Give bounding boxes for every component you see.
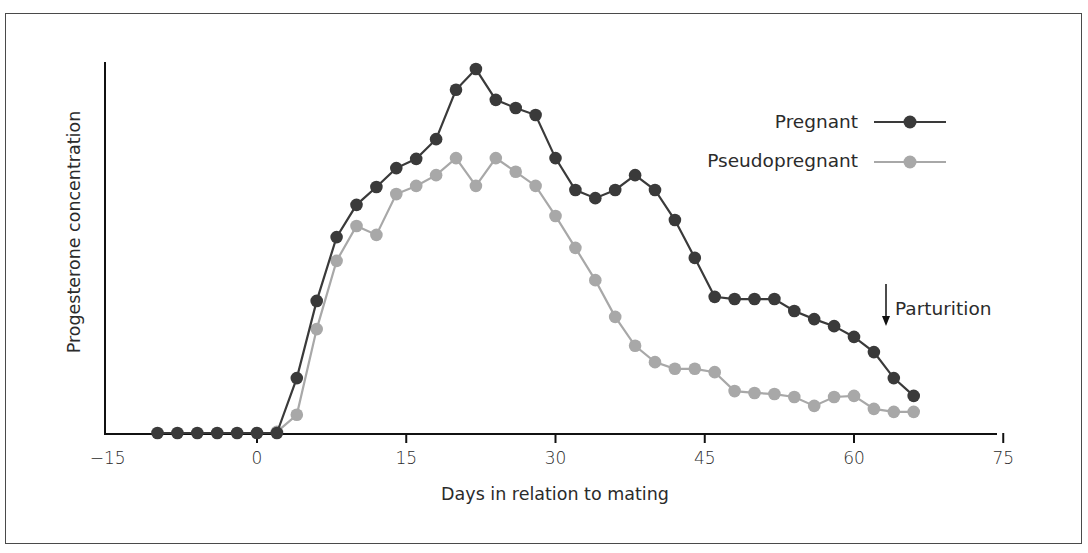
data-point-marker [350,220,363,233]
y-axis-title: Progesterone concentration [64,111,84,354]
x-axis-ticks: −1501530456075 [90,433,1014,468]
data-point-marker [649,356,662,369]
data-point-marker [509,166,522,179]
x-tick-label: 60 [843,448,865,468]
data-point-marker [291,409,304,422]
data-point-marker [907,390,920,403]
data-point-marker [191,427,204,440]
data-point-marker [907,406,920,419]
data-point-marker [450,152,463,165]
legend: Pregnant Pseudopregnant [707,111,946,171]
data-point-marker [231,427,244,440]
data-point-marker [748,387,761,400]
legend-marker-pseudopregnant-icon [904,156,917,169]
x-tick-label: −15 [90,448,126,468]
data-point-marker [490,94,503,107]
data-point-marker [490,152,503,165]
data-point-marker [609,184,622,197]
data-point-marker [151,427,164,440]
legend-label-pregnant: Pregnant [775,111,858,132]
data-point-marker [350,199,363,212]
data-point-marker [689,252,702,265]
data-point-marker [669,363,682,376]
parturition-annotation: Parturition [882,284,991,326]
data-point-marker [390,162,403,175]
data-point-marker [589,274,602,287]
data-point-marker [370,181,383,194]
data-point-marker [211,427,224,440]
data-point-marker [390,188,403,201]
data-point-marker [768,293,781,306]
x-tick-label: 30 [545,448,567,468]
data-point-marker [410,153,423,166]
data-point-marker [370,229,383,242]
data-point-marker [848,331,861,344]
data-point-marker [868,403,881,416]
data-point-marker [788,391,801,404]
data-point-marker [291,372,304,385]
progesterone-line-chart: −1501530456075 Days in relation to matin… [0,0,1088,553]
data-point-marker [768,388,781,401]
data-point-marker [569,184,582,197]
data-point-marker [171,427,184,440]
legend-marker-pregnant-icon [904,116,917,129]
data-point-marker [430,169,443,182]
x-tick-label: 0 [252,448,263,468]
data-point-marker [589,192,602,205]
data-point-marker [330,231,343,244]
data-point-marker [450,84,463,97]
legend-label-pseudopregnant: Pseudopregnant [707,150,858,171]
data-point-marker [689,363,702,376]
data-point-marker [310,323,323,336]
x-tick-label: 15 [395,448,417,468]
parturition-label: Parturition [895,298,991,319]
data-point-marker [828,320,841,333]
arrowhead-icon [882,316,890,326]
data-point-marker [509,102,522,115]
data-point-marker [629,169,642,182]
data-point-marker [470,63,483,76]
x-tick-label: 45 [694,448,716,468]
data-point-marker [808,313,821,326]
data-point-marker [310,295,323,308]
data-point-marker [569,242,582,255]
x-tick-label: 75 [992,448,1014,468]
data-point-marker [808,400,821,413]
legend-item-pregnant: Pregnant [775,111,946,132]
data-point-marker [868,346,881,359]
data-point-marker [529,109,542,122]
data-point-marker [529,180,542,193]
data-point-marker [470,180,483,193]
data-point-marker [788,305,801,318]
data-point-marker [410,180,423,193]
data-point-marker [549,210,562,223]
data-point-marker [748,293,761,306]
data-point-marker [708,366,721,379]
data-point-marker [609,311,622,324]
data-point-marker [271,427,284,440]
data-point-marker [629,340,642,353]
data-point-marker [649,184,662,197]
data-point-marker [888,406,901,419]
data-point-marker [728,293,741,306]
x-axis-title: Days in relation to mating [441,484,669,504]
data-point-marker [828,391,841,404]
data-point-marker [549,152,562,165]
data-point-marker [708,291,721,304]
data-point-marker [251,427,264,440]
data-point-marker [669,214,682,227]
data-point-marker [430,133,443,146]
data-point-marker [330,255,343,268]
data-point-marker [848,390,861,403]
data-point-marker [888,372,901,385]
data-point-marker [728,385,741,398]
legend-item-pseudopregnant: Pseudopregnant [707,150,946,171]
